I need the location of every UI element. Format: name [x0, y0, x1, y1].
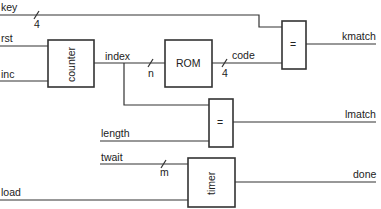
label-lmatch: lmatch [345, 108, 376, 120]
label-index: index [105, 50, 131, 62]
label-load: load [1, 186, 21, 198]
label-length: length [101, 127, 130, 139]
label-code: code [232, 49, 255, 61]
label-twait: twait [101, 151, 123, 163]
label-inc: inc [1, 68, 14, 80]
eq-length-label: = [217, 116, 223, 128]
bus-width-code: 4 [222, 67, 228, 79]
wire-index-branch [124, 63, 209, 105]
counter-label: counter [65, 46, 77, 82]
bus-width-twait: m [160, 166, 169, 178]
label-kmatch: kmatch [342, 30, 376, 42]
bus-width-key: 4 [34, 18, 40, 30]
label-key: key [1, 1, 18, 13]
eq-key-label: = [290, 38, 296, 50]
label-done: done [353, 168, 377, 180]
bus-width-index: n [148, 67, 154, 79]
rom-label: ROM [176, 57, 201, 69]
wire-key [0, 15, 282, 27]
timer-label: timer [205, 171, 217, 195]
label-rst: rst [1, 32, 13, 44]
block-diagram: key 4 rst inc counter index n ROM code 4… [0, 0, 381, 209]
